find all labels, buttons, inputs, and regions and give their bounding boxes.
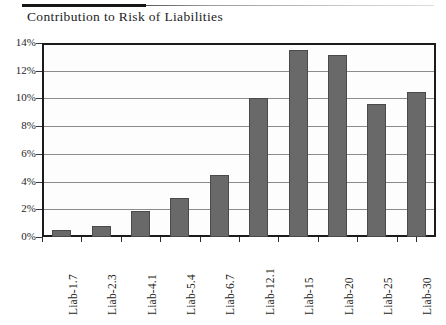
y-axis-tick-label: 4% [2,176,36,187]
y-axis-tick-label: 14% [2,37,36,48]
bar [367,104,386,237]
x-axis-tick-mark [200,237,201,242]
x-axis-tick-mark [239,237,240,242]
x-axis-category-label: Liab-2.3 [106,274,118,315]
x-axis-tick-mark [397,237,398,242]
bar [170,198,189,237]
x-axis-tick-mark [81,237,82,242]
x-axis-category-label: Liab-1.7 [67,274,79,315]
bar [52,230,71,237]
bar [249,98,268,237]
x-axis-category-label: Liab-25 [382,277,394,315]
x-axis: Liab-1.7Liab-2.3Liab-4.1Liab-5.4Liab-6.7… [42,237,436,325]
y-axis-tick-label: 10% [2,92,36,103]
x-axis-category-label: Liab-12.1 [264,268,276,315]
y-axis-tick-label: 12% [2,65,36,76]
bar [407,92,426,238]
y-axis-tick-label: 6% [2,148,36,159]
x-axis-tick-mark [416,237,417,242]
x-axis-tick-mark [121,237,122,242]
bar [328,55,347,237]
y-axis-tick-label: 8% [2,120,36,131]
x-axis-category-label: Liab-4.1 [146,274,158,315]
x-axis-category-label: Liab-5.4 [185,274,197,315]
y-axis-tick-label: 0% [2,231,36,242]
bar [289,50,308,237]
x-axis-category-label: Liab-20 [343,277,355,315]
x-axis-tick-mark [42,237,43,242]
x-axis-tick-mark [278,237,279,242]
x-axis-tick-mark [160,237,161,242]
y-axis-tick-label: 2% [2,203,36,214]
x-axis-category-label: Liab-15 [303,277,315,315]
bar-series [42,43,436,237]
x-axis-tick-mark [318,237,319,242]
x-axis-category-label: Liab-30 [421,277,433,315]
bar-chart: 0%2%4%6%8%10%12%14% Liab-1.7Liab-2.3Liab… [0,0,446,325]
bar [131,211,150,237]
bar [210,175,229,237]
x-axis-category-label: Liab-6.7 [224,274,236,315]
bar [92,226,111,237]
x-axis-tick-mark [357,237,358,242]
